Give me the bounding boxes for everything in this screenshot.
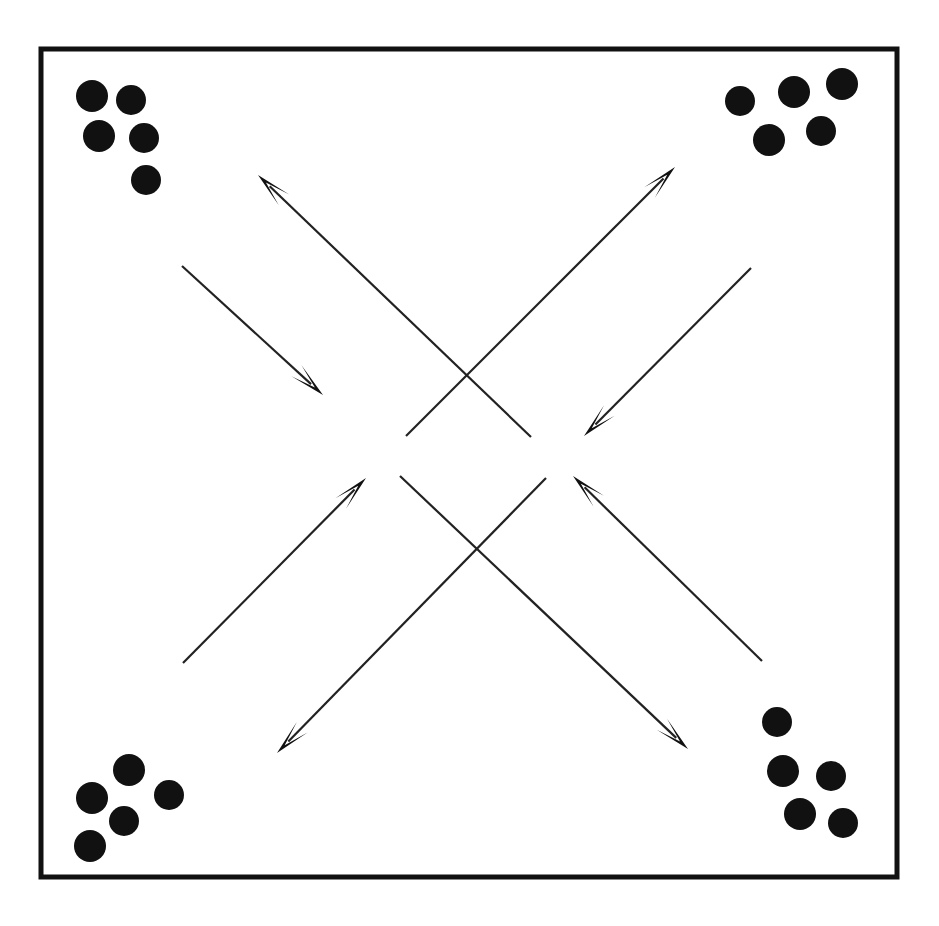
cluster-dot [753, 124, 785, 156]
diagram-svg [0, 0, 939, 926]
cluster-dot [806, 116, 836, 146]
cluster-dot [113, 754, 145, 786]
cluster-dot [784, 798, 816, 830]
diagram-canvas [0, 0, 939, 926]
cluster-dot [116, 85, 146, 115]
cluster-dot [816, 761, 846, 791]
cluster-dot [83, 120, 115, 152]
cluster-dot [826, 68, 858, 100]
cluster-dot [154, 780, 184, 810]
cluster-dot [778, 76, 810, 108]
cluster-dot [762, 707, 792, 737]
cluster-dot [131, 165, 161, 195]
cluster-dot [109, 806, 139, 836]
cluster-dot [76, 80, 108, 112]
cluster-dot [725, 86, 755, 116]
cluster-dot [129, 123, 159, 153]
cluster-dot [767, 755, 799, 787]
cluster-dot [76, 782, 108, 814]
cluster-dot [74, 830, 106, 862]
cluster-dot [828, 808, 858, 838]
